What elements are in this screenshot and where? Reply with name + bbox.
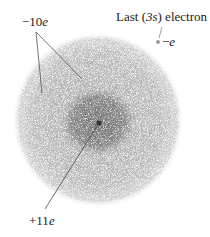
- sodium-atom-diagram: −10e Last (3s) electron −e +11e: [0, 0, 210, 237]
- last-electron-orbital: 3s: [146, 9, 158, 24]
- inner-electrons-symbol: e: [42, 14, 48, 29]
- inner-electrons-number: 10: [29, 14, 42, 29]
- nucleus-number: 11: [36, 213, 49, 228]
- atom-illustration: [0, 0, 210, 237]
- last-electron-caption-prefix: Last (: [116, 9, 146, 24]
- valence-electron-dot: [156, 40, 160, 44]
- valence-electron-symbol: e: [169, 34, 175, 49]
- nucleus-symbol: e: [49, 213, 55, 228]
- valence-electron-charge-label: −e: [162, 35, 175, 48]
- nucleus-charge-label: +11e: [29, 214, 55, 227]
- last-electron-caption: Last (3s) electron: [116, 10, 207, 23]
- inner-electrons-charge-label: −10e: [22, 15, 48, 28]
- last-electron-caption-suffix: ) electron: [158, 9, 207, 24]
